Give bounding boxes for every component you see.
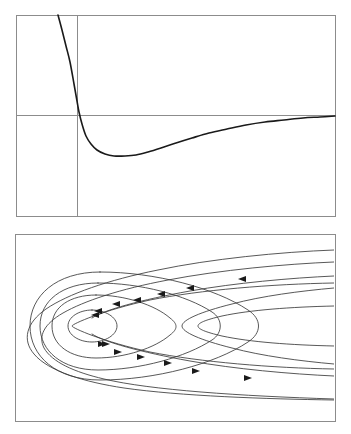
figure-canvas	[0, 0, 351, 434]
